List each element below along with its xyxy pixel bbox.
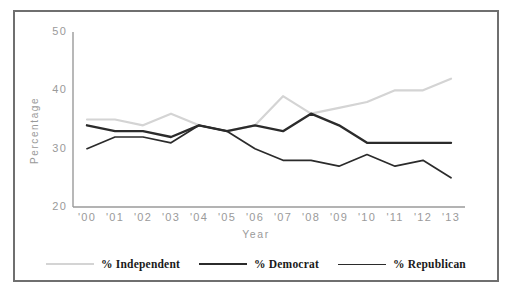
series-line-republican (87, 125, 451, 178)
series-line-independent (87, 79, 451, 132)
legend-entry[interactable]: % Independent (46, 258, 180, 270)
series-line-democrat (87, 114, 451, 143)
legend-line-swatch (46, 263, 94, 265)
chart-figure: Percentage 20304050 '00'01'02'03'04'05'0… (13, 10, 499, 282)
chart-legend: % Independent% Democrat% Republican (15, 248, 497, 280)
x-axis-title: Year (15, 228, 497, 240)
line-chart-canvas (15, 12, 497, 242)
legend-entry[interactable]: % Republican (338, 258, 466, 270)
axis-lines (73, 32, 465, 207)
legend-entry[interactable]: % Democrat (199, 258, 319, 270)
legend-line-swatch (338, 264, 386, 265)
legend-label: % Democrat (254, 258, 319, 270)
legend-label: % Independent (101, 258, 180, 270)
plot-area: Percentage 20304050 '00'01'02'03'04'05'0… (15, 12, 497, 242)
legend-label: % Republican (393, 258, 466, 270)
legend-line-swatch (199, 263, 247, 265)
data-series-group (87, 79, 451, 178)
